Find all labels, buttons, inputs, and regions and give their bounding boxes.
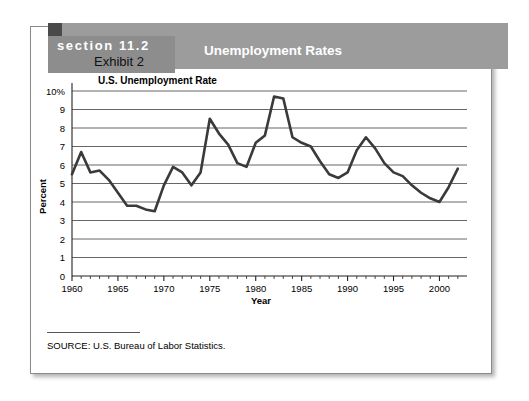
svg-text:4: 4: [60, 197, 65, 208]
exhibit-figure: section 11.2 Exhibit 2 Unemployment Rate…: [30, 26, 492, 374]
exhibit-title: Unemployment Rates: [204, 43, 342, 58]
svg-text:1975: 1975: [199, 283, 220, 294]
svg-text:3: 3: [60, 215, 65, 226]
svg-text:1: 1: [60, 252, 65, 263]
svg-text:9: 9: [60, 104, 65, 115]
svg-text:2000: 2000: [429, 283, 450, 294]
svg-text:1960: 1960: [61, 283, 82, 294]
svg-text:1965: 1965: [107, 283, 128, 294]
header-corner-square-icon: [48, 23, 62, 36]
exhibit-label: Exhibit 2: [94, 54, 144, 69]
svg-text:6: 6: [60, 160, 65, 171]
section-label: section 11.2: [57, 38, 150, 53]
svg-text:0: 0: [60, 271, 65, 282]
svg-text:1980: 1980: [245, 283, 266, 294]
source-text: SOURCE: U.S. Bureau of Labor Statistics.: [47, 340, 225, 351]
svg-text:1990: 1990: [337, 283, 358, 294]
svg-text:7: 7: [60, 141, 65, 152]
svg-text:5: 5: [60, 178, 65, 189]
svg-text:1970: 1970: [153, 283, 174, 294]
svg-text:10%: 10%: [46, 86, 66, 97]
svg-text:1985: 1985: [291, 283, 312, 294]
svg-text:8: 8: [60, 123, 65, 134]
source-divider: [47, 332, 140, 333]
unemployment-rate-line-chart: 012345678910%196019651970197519801985199…: [31, 73, 491, 318]
svg-text:1995: 1995: [383, 283, 404, 294]
chart-container: U.S. Unemployment Rate Percent Year 0123…: [31, 73, 491, 318]
svg-text:2: 2: [60, 234, 65, 245]
